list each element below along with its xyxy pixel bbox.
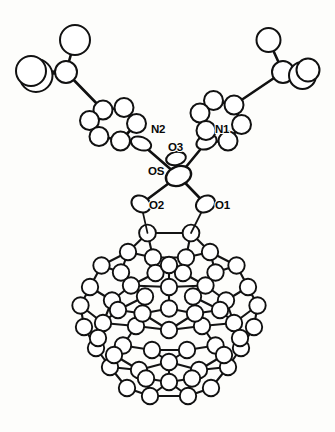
label-n2: N2 (151, 123, 165, 135)
cage-carbon-atom (161, 257, 177, 273)
cage-carbon-atom (137, 288, 153, 304)
atom-c3r (225, 96, 244, 115)
cage-carbon-atom (95, 315, 111, 331)
cage-carbon-atom (138, 370, 154, 386)
cage-carbon-atom (228, 257, 244, 273)
cage-carbon-atom (119, 380, 135, 396)
cage-carbon-atom (161, 300, 177, 316)
cage-carbon-atom (93, 257, 109, 273)
atom-me1r (257, 28, 281, 52)
cage-carbon-atom (203, 380, 219, 396)
cage-carbon-atom (216, 347, 232, 363)
cage-carbon-atom (144, 342, 160, 358)
cage-carbon-atom (184, 370, 200, 386)
label-o1: O1 (215, 199, 231, 211)
atom-me3r (297, 59, 320, 82)
atom-c6l (90, 127, 109, 146)
cage-carbon-atom (202, 244, 218, 260)
cage-carbon-atom (106, 347, 122, 363)
cage-carbon-atom (123, 277, 139, 293)
cage-carbon-atom (110, 302, 126, 318)
atom-c2l (127, 114, 146, 133)
atom-c6r (197, 121, 216, 140)
molecular-structure-svg: N2N1O3OSO2O1 (0, 0, 335, 432)
cage-carbon-atom (226, 315, 242, 331)
cage-carbon-atom (185, 288, 201, 304)
atom-c2r (232, 115, 251, 134)
cage-carbon-atom (142, 388, 158, 404)
label-o3: O3 (168, 141, 183, 153)
cage-carbon-atom (212, 302, 228, 318)
ortep-figure: N2N1O3OSO2O1 (0, 0, 335, 432)
cage-carbon-atom (161, 322, 177, 338)
atom-c5r (191, 104, 210, 123)
cage-carbon-atom (76, 319, 92, 335)
cage-carbon-atom (178, 249, 194, 265)
cage-carbon-atom (145, 249, 161, 265)
cage-carbon-atom (232, 330, 248, 346)
cage-carbon-atom (180, 388, 196, 404)
atom-c3l (115, 98, 134, 117)
cage-carbon-atom (187, 305, 203, 321)
label-n1: N1 (215, 123, 230, 135)
cage-carbon-atom (246, 319, 262, 335)
atom-me1l (60, 25, 90, 55)
cage-carbon-atom (134, 305, 150, 321)
label-os: OS (148, 165, 165, 177)
atom-me3l (16, 56, 46, 86)
cage-carbon-atom (161, 354, 177, 370)
cage-carbon-atom (240, 279, 256, 295)
cage-carbon-atom (249, 297, 265, 313)
cage-carbon-atom (179, 342, 195, 358)
cage-carbon-atom (90, 330, 106, 346)
cage-carbon-atom (161, 279, 177, 295)
cage-carbon-atom (161, 374, 177, 390)
atom-cql (55, 61, 77, 83)
label-o2: O2 (149, 199, 164, 211)
atom-c1l (111, 132, 130, 151)
cage-carbon-atom (120, 244, 136, 260)
cage-carbon-atom (72, 297, 88, 313)
cage-carbon-atom (82, 279, 98, 295)
